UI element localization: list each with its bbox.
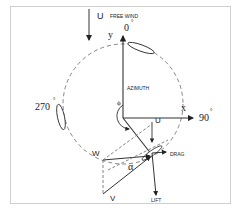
angle-0-label: 0 (124, 22, 129, 33)
angle-90-degree: ° (210, 108, 213, 114)
blade-velocity-label: V (110, 194, 116, 203)
chord-extension-dashed (108, 140, 168, 170)
turbine-diagram: U FREE WIND y 0 ° x 90 ° 270 ° AZIMUTH ϕ… (0, 0, 234, 214)
azimuth-label: AZIMUTH (127, 85, 150, 91)
lift-arrow (152, 153, 156, 195)
angle-270-label: 270 (35, 101, 50, 112)
relative-wind-label: W (92, 149, 100, 158)
y-axis-label: y (108, 29, 113, 40)
angle-90-label: 90 (199, 112, 209, 123)
phi-label: ϕ (117, 99, 121, 107)
free-wind-label: FREE WIND (110, 13, 138, 19)
blade-left (55, 104, 67, 131)
angle-0-degree: ° (131, 19, 134, 25)
radius-line (123, 118, 152, 155)
local-wind-label: U (155, 116, 161, 125)
angle-270-degree: ° (53, 97, 56, 103)
x-axis-label: x (181, 102, 186, 113)
alpha-label: α (128, 161, 134, 172)
blade-top (127, 40, 156, 56)
free-wind-symbol: U (97, 11, 104, 21)
triangle-dashed-upper (103, 124, 152, 160)
lift-label: LIFT (151, 197, 161, 203)
drag-label: DRAG (170, 151, 185, 157)
